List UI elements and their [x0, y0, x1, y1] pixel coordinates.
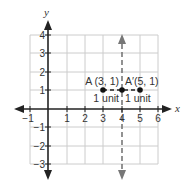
x-axis-right-arrow-icon: [162, 105, 172, 113]
x-tick-label: 3: [100, 113, 106, 124]
distance-label-right: 1 unit: [125, 92, 151, 104]
x-axis-left-arrow-icon: [14, 105, 24, 113]
y-axis-title: y: [43, 6, 49, 18]
y-axis-down-arrow-icon: [44, 170, 52, 180]
y-tick-label: 1: [39, 85, 45, 96]
x-tick-label: 1: [64, 113, 70, 124]
y-axis: [44, 20, 52, 180]
coordinate-plane: y x −1 1 2 3 4 5 6 4 3 2 1 −1 −2 −3 A (3…: [0, 0, 186, 188]
y-tick-label: 3: [39, 48, 45, 59]
point-a-label: A (3, 1): [85, 75, 119, 87]
x-tick-label: 2: [82, 113, 88, 124]
point-a-prime-label: A′(5, 1): [125, 75, 158, 87]
x-tick-label: 5: [137, 113, 143, 124]
distance-label-left: 1 unit: [93, 92, 119, 104]
y-tick-label: 2: [39, 67, 45, 78]
y-tick-label: −1: [34, 122, 46, 133]
y-tick-label: −3: [34, 159, 46, 170]
y-axis-up-arrow-icon: [44, 20, 52, 30]
y-tick-label: −2: [34, 141, 46, 152]
arrow-down-icon: [118, 170, 126, 180]
y-tick-label: 4: [39, 30, 45, 41]
y-tick-labels: 4 3 2 1 −1 −2 −3: [34, 30, 46, 170]
x-axis-title: x: [174, 102, 180, 114]
point-on-line: [119, 87, 125, 93]
x-axis: [14, 105, 172, 113]
x-tick-label: 6: [155, 113, 161, 124]
x-tick-label: 4: [119, 113, 125, 124]
x-tick-label: −1: [22, 113, 34, 124]
